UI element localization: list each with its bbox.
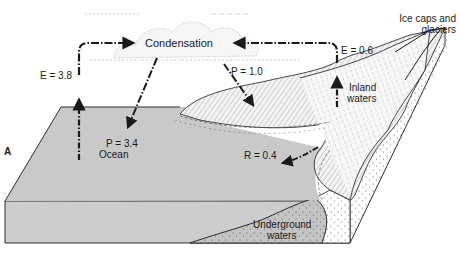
- inland-waters-label-2: waters: [347, 93, 376, 104]
- ice-caps-label-1: Ice caps and: [399, 13, 456, 24]
- inland-waters-label-1: Inland: [349, 82, 376, 93]
- panel-label: A: [4, 146, 11, 157]
- underground-waters-label-1: Underground: [253, 219, 311, 230]
- precipitation-ocean-label: P = 3.4: [106, 138, 138, 149]
- hydrologic-cycle-diagram: Condensation E = 3.8 P = 3.4 Ocean P = 1…: [0, 0, 460, 253]
- ocean-label: Ocean: [99, 149, 128, 160]
- runoff-label: R = 0.4: [244, 150, 277, 161]
- diagram-graphics: [0, 0, 460, 253]
- underground-waters-label-2: waters: [267, 230, 296, 241]
- evaporation-ocean-label: E = 3.8: [40, 70, 72, 81]
- condensation-label: Condensation: [145, 38, 213, 49]
- evaporation-land-label: E = 0.6: [341, 45, 373, 56]
- precipitation-land-label: P = 1.0: [231, 66, 263, 77]
- ice-caps-label-2: glaciers: [422, 24, 456, 35]
